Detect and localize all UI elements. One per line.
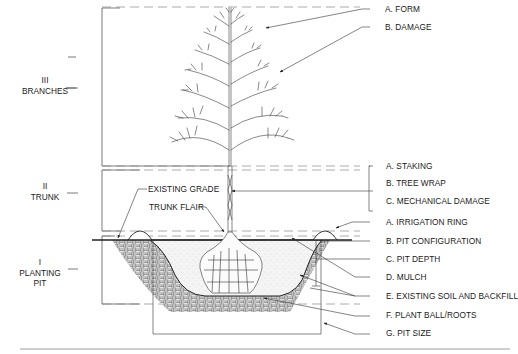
section-name: TRUNK [22,192,68,203]
label-tree-wrap: B. TREE WRAP [386,178,446,188]
label-plant-ball: F. PLANT BALL/ROOTS [386,310,477,320]
label-staking: A. STAKING [386,161,432,171]
label-mulch: D. MULCH [386,272,427,282]
section-numeral: III [22,75,68,86]
section-name: PIT [14,278,66,289]
section-branches: III BRANCHES [22,75,68,96]
tree-crown [170,8,294,166]
label-form: A. FORM [385,4,420,14]
section-planting-pit: I PLANTING PIT [14,257,66,289]
section-name: BRANCHES [22,86,68,97]
label-damage: B. DAMAGE [385,22,432,32]
label-pit-configuration: B. PIT CONFIGURATION [386,236,481,246]
label-mechanical-damage: C. MECHANICAL DAMAGE [386,196,490,206]
label-existing-soil: E. EXISTING SOIL AND BACKFILL [386,291,518,301]
tree-trunk [228,166,232,232]
label-irrigation-ring: A. IRRIGATION RING [386,217,468,227]
section-numeral: I [14,257,66,268]
section-name: PLANTING [14,268,66,279]
section-numeral: II [22,181,68,192]
callout-trunk-flair: TRUNK FLAIR [149,202,204,212]
label-pit-depth: C. PIT DEPTH [386,254,440,264]
callout-existing-grade: EXISTING GRADE [148,184,219,194]
label-pit-size: G. PIT SIZE [386,328,431,338]
section-trunk: II TRUNK [22,181,68,202]
